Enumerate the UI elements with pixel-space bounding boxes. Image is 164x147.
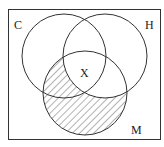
label-x: X: [80, 66, 89, 80]
label-m: M: [131, 123, 142, 137]
label-h: H: [145, 18, 154, 32]
venn-diagram: C H X M: [0, 0, 164, 147]
label-c: C: [14, 18, 22, 32]
